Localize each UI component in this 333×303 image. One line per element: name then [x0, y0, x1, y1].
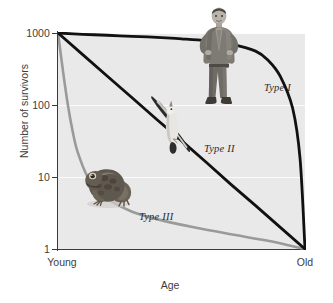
seagull-photo [145, 93, 201, 158]
y-tick-10 [52, 177, 58, 178]
y-axis-line [57, 31, 58, 251]
y-tick-label-1: 1 [0, 244, 50, 254]
curve-label-type-i: Type I [264, 82, 291, 93]
y-tick-label-1000-wrap: 1000 [0, 28, 50, 38]
y-tick-1000 [52, 33, 58, 34]
y-tick-1 [52, 249, 58, 250]
gridline-1000 [58, 33, 305, 34]
x-axis-title: Age [130, 279, 210, 291]
x-tick-label-old: Old [284, 256, 326, 268]
y-tick-label-1000: 1000 [0, 28, 50, 38]
x-tick-label-young: Young [36, 256, 88, 268]
curve-label-type-iii: Type III [139, 211, 173, 222]
y-tick-100 [52, 105, 58, 106]
frog-photo [77, 158, 139, 210]
x-axis-line [57, 249, 306, 250]
curve-label-type-ii: Type II [204, 143, 235, 154]
survivorship-curve-figure: 1000 100 10 1 Number of survivors Age Yo… [0, 0, 333, 303]
y-axis-title: Number of survivors [18, 41, 30, 181]
y-tick-label-1-wrap: 1 [0, 244, 50, 254]
